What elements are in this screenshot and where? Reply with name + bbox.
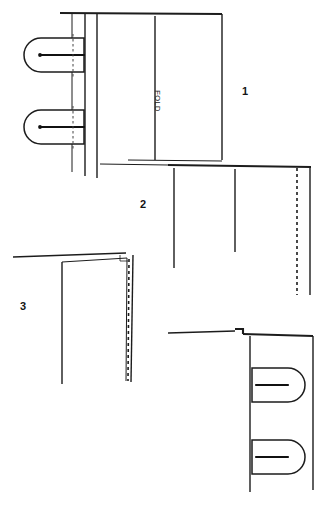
figure-2-group: 2 (100, 164, 311, 295)
figure-3-group: 3 (13, 253, 133, 384)
figure-3-fold-top-edge (62, 258, 127, 262)
figure-1-group: FOLD 1 (24, 13, 248, 178)
construction-diagram: FOLD 1 (0, 0, 323, 506)
step-label-2: 2 (140, 198, 146, 210)
step-label-3: 3 (20, 300, 26, 312)
diagram-root: FOLD 1 (0, 0, 323, 506)
tab-1-tack-dot (38, 53, 42, 57)
fold-label: FOLD (153, 90, 162, 112)
figure-2-top-edge (168, 165, 311, 167)
tab-2-tack-dot (38, 125, 42, 129)
figure-1-tab-2 (24, 106, 84, 149)
figure-4-group (168, 329, 313, 492)
figure-4-tab-2 (252, 440, 305, 474)
figure-3-right-inner-edge (126, 258, 127, 381)
figure-3-stitch-line (128, 259, 129, 381)
figure-1-tab-1 (24, 34, 84, 77)
figure-4-tab-1 (252, 368, 305, 402)
figure-3-top-ledge (13, 253, 126, 257)
figure-3-right-outer-edge (131, 255, 133, 382)
figure-1-bottom-edge (128, 160, 222, 161)
figure-4-top-edge (243, 334, 313, 336)
figure-1-top-edge (60, 13, 222, 14)
figure-4-top-ledge (168, 331, 235, 333)
figure-2-ledge (100, 164, 168, 165)
step-label-1: 1 (242, 85, 248, 97)
figure-4-flap-notch (235, 329, 243, 334)
